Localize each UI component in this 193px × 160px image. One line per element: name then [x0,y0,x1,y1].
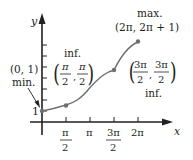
y-axis-label: y [30,15,38,28]
function-graph: y x 1 (0, 1) min. inf. ( π 2 , π 2 ) ( 3… [0,0,193,160]
svg-text:): ) [88,60,95,88]
svg-text:π: π [78,61,86,72]
x-tick-3pi-over-2-den: 2 [110,142,116,153]
x-tick-pi: π [86,127,93,138]
inflection-1-coordinate: ( π 2 , π 2 ) [53,60,94,88]
svg-text:2: 2 [79,76,85,87]
svg-text:2: 2 [62,76,68,87]
x-tick-2pi: 2π [131,127,144,138]
inflection-2-note: inf. [145,87,162,99]
svg-text:,: , [73,71,76,82]
max-point [136,39,140,43]
inflection-1-note: inf. [64,47,81,59]
svg-text:π: π [61,61,69,72]
y-tick-label-1: 1 [32,105,39,118]
min-point [40,109,44,113]
svg-text:(: ( [53,60,60,88]
x-axis-arrow-icon [162,119,173,126]
x-axis-label: x [174,125,181,138]
max-note-label: max. [137,7,162,19]
inflection-point-1 [64,103,68,107]
svg-text:,: , [149,69,152,80]
y-axis-arrow-icon [39,13,46,24]
max-coordinate-label: (2π, 2π + 1) [115,21,179,33]
min-coordinate-label: (0, 1) [10,63,38,75]
x-tick-pi-over-2-den: 2 [62,142,68,153]
svg-text:2: 2 [158,74,164,85]
x-tick-3pi-over-2-num: 3π [107,127,120,138]
svg-text:): ) [170,58,177,86]
x-tick-pi-over-2-num: π [62,127,69,138]
inflection-2-coordinate: ( 3π 2 , 3π 2 ) [129,58,177,86]
min-note-label: min. [12,76,35,88]
svg-text:3π: 3π [155,59,168,70]
inflection-point-2 [112,68,116,72]
min-pointer-line [28,88,37,103]
x-tick-labels: π 2 π 3π 2 2π [60,127,144,153]
svg-text:2: 2 [137,74,143,85]
svg-text:3π: 3π [134,59,147,70]
